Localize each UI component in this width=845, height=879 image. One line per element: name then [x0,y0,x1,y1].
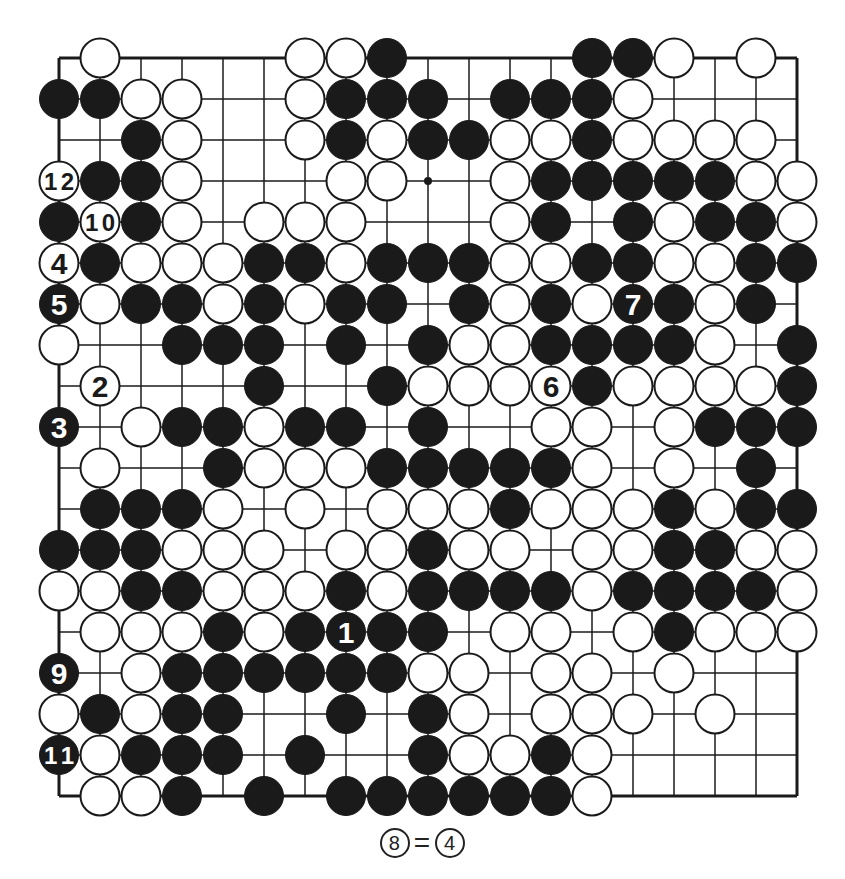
black-stone [409,326,448,365]
black-stone [122,162,161,201]
white-stone [286,80,325,119]
black-stone [532,777,571,816]
white-stone [491,121,530,160]
white-stone [491,244,530,283]
black-stone [696,203,735,242]
black-stone [409,531,448,570]
white-stone [286,490,325,529]
black-stone [655,285,694,324]
white-stone [614,490,653,529]
white-stone [286,285,325,324]
white-stone [286,39,325,78]
caption-move-right: 4 [435,828,465,858]
black-stone [368,613,407,652]
white-stone [532,613,571,652]
white-stone [696,613,735,652]
white-stone [122,613,161,652]
white-stone [163,613,202,652]
white-stone [491,367,530,406]
black-stone [696,408,735,447]
white-stone [737,531,776,570]
black-stone [245,777,284,816]
black-stone [122,121,161,160]
white-stone [573,572,612,611]
white-stone [368,572,407,611]
black-stone [532,203,571,242]
white-stone [532,695,571,734]
white-stone [532,121,571,160]
black-stone [778,244,817,283]
white-stone [737,121,776,160]
black-stone [81,531,120,570]
white-stone [286,572,325,611]
white-stone [614,367,653,406]
black-stone [778,326,817,365]
white-stone [368,490,407,529]
black-stone [655,162,694,201]
white-stone [573,449,612,488]
black-stone [409,572,448,611]
white-stone [778,613,817,652]
black-stone [163,695,202,734]
black-stone [368,244,407,283]
white-stone [573,777,612,816]
move-number-label: 5 [51,288,68,321]
black-stone [409,449,448,488]
white-stone [327,39,366,78]
white-stone [778,531,817,570]
white-stone [409,490,448,529]
white-stone [614,80,653,119]
white-stone [122,777,161,816]
white-stone [163,121,202,160]
white-stone [450,531,489,570]
black-stone [655,613,694,652]
black-stone [204,326,243,365]
black-stone [696,572,735,611]
black-stone [204,408,243,447]
black-stone [368,39,407,78]
black-stone [737,285,776,324]
white-stone [655,39,694,78]
black-stone [491,490,530,529]
white-stone [491,162,530,201]
black-stone [163,285,202,324]
black-stone [778,367,817,406]
white-stone [204,531,243,570]
white-stone [450,326,489,365]
black-stone [81,80,120,119]
white-stone [532,654,571,693]
white-stone [778,203,817,242]
black-stone [122,285,161,324]
white-stone [163,531,202,570]
black-stone [327,80,366,119]
black-stone [655,490,694,529]
black-stone [327,408,366,447]
black-stone [573,121,612,160]
white-stone [368,121,407,160]
white-stone [573,285,612,324]
black-stone [204,695,243,734]
white-stone [737,367,776,406]
white-stone [614,531,653,570]
black-stone [81,162,120,201]
black-stone [368,80,407,119]
white-stone [81,39,120,78]
white-stone [122,654,161,693]
white-stone [163,80,202,119]
black-stone [368,654,407,693]
black-stone [245,285,284,324]
black-stone [614,39,653,78]
black-stone [655,572,694,611]
white-stone [614,121,653,160]
white-stone [81,449,120,488]
black-stone [327,572,366,611]
black-stone [327,654,366,693]
white-stone [614,695,653,734]
black-stone [532,736,571,775]
black-stone [491,572,530,611]
white-stone [245,449,284,488]
white-stone [655,408,694,447]
white-stone [81,736,120,775]
white-stone [696,121,735,160]
white-stone [409,367,448,406]
